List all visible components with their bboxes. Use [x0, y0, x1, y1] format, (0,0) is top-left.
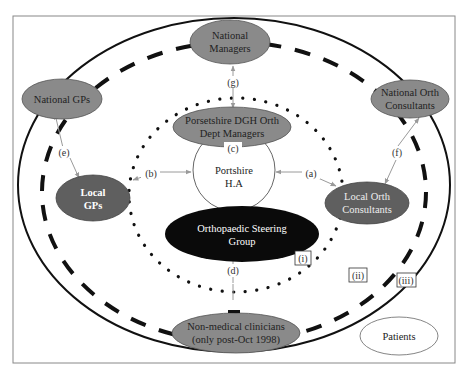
national-managers-label-2: Managers: [209, 43, 250, 54]
national-managers-label-1: National: [212, 30, 248, 41]
non-medical-label-1: Non-medical clinicians: [187, 321, 285, 332]
arrow-e-down: [70, 158, 79, 178]
node-non-medical-clinicians[interactable]: Non-medical clinicians (only post-Oct 19…: [172, 310, 300, 353]
boundary-label-iii: (iii): [399, 275, 414, 287]
node-dept-managers[interactable]: Porsetshire DGH Orth Dept Managers: [173, 107, 291, 147]
node-national-orth-consultants[interactable]: National Orth Consultants: [371, 80, 449, 118]
dept-managers-label-2: Dept Managers: [200, 128, 264, 139]
non-medical-shape: [172, 313, 300, 353]
dept-managers-shape: [173, 107, 291, 147]
national-gps-label: National GPs: [34, 94, 90, 105]
diagram-canvas: National Managers National GPs National …: [0, 0, 467, 377]
link-label-e: (e): [58, 147, 69, 159]
node-local-orth-consultants[interactable]: Local Orth Consultants: [325, 182, 409, 224]
link-label-f: (f): [392, 147, 402, 159]
local-gps-label-1: Local: [80, 187, 105, 198]
boundary-labels: (i) (ii) (iii): [295, 251, 416, 287]
arrow-f-down: [385, 160, 396, 184]
local-gps-shape: [56, 175, 130, 221]
node-local-gps[interactable]: Local GPs: [56, 175, 130, 221]
link-label-a: (a): [305, 168, 316, 180]
dept-managers-label-1: Porsetshire DGH Orth: [185, 115, 280, 126]
d-connector-mark: [228, 310, 240, 313]
local-orth-shape: [325, 182, 409, 224]
link-label-b: (b): [145, 168, 157, 180]
national-orth-shape: [371, 80, 449, 118]
node-patients[interactable]: Patients: [360, 317, 438, 355]
portshire-ha-label-2: H.A: [225, 178, 243, 189]
local-gps-label-2: GPs: [84, 200, 103, 211]
local-orth-label-1: Local Orth: [344, 191, 391, 202]
steering-group-label-2: Group: [229, 236, 256, 247]
node-national-managers[interactable]: National Managers: [190, 20, 270, 64]
link-label-c: (c): [227, 143, 238, 155]
link-label-d: (d): [227, 265, 239, 277]
portshire-ha-label-1: Portshire: [215, 165, 253, 176]
boundary-label-ii: (ii): [352, 270, 364, 282]
non-medical-label-2: (only post-Oct 1998): [192, 334, 281, 346]
boundary-label-i: (i): [298, 253, 307, 265]
national-orth-label-1: National Orth: [381, 87, 440, 98]
link-label-g: (g): [227, 77, 239, 89]
steering-group-label-1: Orthopaedic Steering: [197, 223, 287, 234]
arrow-a-right: [318, 178, 336, 186]
patients-label: Patients: [382, 331, 415, 342]
local-orth-label-2: Consultants: [342, 204, 392, 215]
national-orth-label-2: Consultants: [385, 100, 435, 111]
node-national-gps[interactable]: National GPs: [22, 79, 102, 119]
national-managers-shape: [190, 20, 270, 64]
